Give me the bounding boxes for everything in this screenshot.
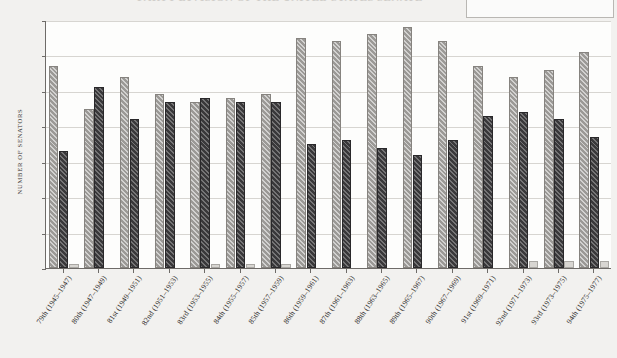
bar-group: [329, 21, 364, 268]
bar-democrat: [579, 52, 589, 268]
x-tick-label: 86th (1959–1961): [282, 274, 321, 326]
x-tick-label: 80th (1947–1949): [70, 274, 109, 326]
bar-democrat: [261, 94, 271, 268]
x-tick-mark: [487, 269, 488, 273]
bar-groups: [46, 21, 611, 268]
bar-group: [258, 21, 293, 268]
bar-republican: [590, 137, 600, 268]
chart-title: PARTY DIVISION OF THE UNITED STATES SENA…: [100, 0, 460, 3]
bar-other: [281, 264, 291, 268]
bar-other: [246, 264, 256, 268]
x-tick-label: 84th (1955–1957): [211, 274, 250, 326]
bar-group: [541, 21, 576, 268]
x-tick-label: 88th (1963–1965): [353, 274, 392, 326]
y-axis-title: NUMBER OF SENATORS: [16, 67, 23, 237]
x-tick-label: 92nd (1971–1973): [493, 274, 533, 327]
chart-legend: OTHER: [466, 0, 614, 18]
bar-republican: [413, 155, 423, 268]
x-tick-mark: [63, 269, 64, 273]
bar-group: [117, 21, 152, 268]
bar-republican: [271, 102, 281, 269]
x-tick-mark: [98, 269, 99, 273]
bar-democrat: [438, 41, 448, 268]
x-tick-mark: [381, 269, 382, 273]
bar-republican: [448, 140, 458, 268]
bar-group: [506, 21, 541, 268]
x-tick-mark: [240, 269, 241, 273]
bar-democrat: [120, 77, 130, 268]
x-tick-mark: [558, 269, 559, 273]
bar-group: [364, 21, 399, 268]
x-tick-mark: [452, 269, 453, 273]
bar-republican: [307, 144, 317, 268]
bar-democrat: [296, 38, 306, 268]
bar-democrat: [84, 109, 94, 268]
bar-group: [577, 21, 612, 268]
bar-republican: [200, 98, 210, 268]
bar-republican: [94, 87, 104, 268]
x-tick-label: 82nd (1951–1953): [139, 274, 179, 327]
x-tick-label: 83rd (1953–1955): [176, 274, 215, 326]
bar-group: [435, 21, 470, 268]
x-axis-labels: 79th (1945–1947)80th (1947–1949)81st (19…: [45, 274, 611, 358]
bar-group: [152, 21, 187, 268]
bar-group: [223, 21, 258, 268]
x-tick-mark: [204, 269, 205, 273]
x-tick-label: 89th (1965–1967): [388, 274, 427, 326]
bar-republican: [554, 119, 564, 268]
bar-other: [69, 264, 79, 268]
x-tick-label: 90th (1967–1969): [423, 274, 462, 326]
bar-democrat: [155, 94, 165, 268]
bar-other: [211, 264, 221, 268]
bar-republican: [59, 151, 69, 268]
x-tick-label: 93rd (1973–1975): [529, 274, 568, 326]
bar-democrat: [473, 66, 483, 268]
x-tick-mark: [275, 269, 276, 273]
bar-republican: [483, 116, 493, 268]
bar-other: [600, 261, 610, 268]
x-tick-label: 79th (1945–1947): [34, 274, 73, 326]
x-tick-label: 94th (1975–1977): [565, 274, 604, 326]
bar-republican: [236, 102, 246, 269]
x-tick-mark: [416, 269, 417, 273]
bar-group: [294, 21, 329, 268]
bar-group: [400, 21, 435, 268]
x-tick-mark: [310, 269, 311, 273]
bar-democrat: [226, 98, 236, 268]
x-tick-label: 87th (1961–1963): [317, 274, 356, 326]
bar-group: [81, 21, 116, 268]
bar-other: [529, 261, 539, 268]
x-tick-mark: [169, 269, 170, 273]
bar-democrat: [367, 34, 377, 268]
chart-root: PARTY DIVISION OF THE UNITED STATES SENA…: [0, 0, 617, 358]
x-tick-label: 81st (1949–1951): [105, 274, 143, 325]
bar-republican: [165, 102, 175, 269]
bar-other: [564, 261, 574, 268]
bar-democrat: [49, 66, 59, 268]
plot-area: 010203040506070: [45, 21, 611, 269]
x-tick-mark: [593, 269, 594, 273]
bar-democrat: [544, 70, 554, 268]
x-tick-label: 85th (1957–1959): [246, 274, 285, 326]
x-tick-mark: [523, 269, 524, 273]
bar-democrat: [403, 27, 413, 268]
bar-republican: [519, 112, 529, 268]
x-tick-mark: [133, 269, 134, 273]
bar-republican: [342, 140, 352, 268]
bar-democrat: [332, 41, 342, 268]
bar-republican: [130, 119, 140, 268]
bar-republican: [377, 148, 387, 268]
x-tick-mark: [346, 269, 347, 273]
bar-group: [471, 21, 506, 268]
bar-democrat: [509, 77, 519, 268]
bar-group: [46, 21, 81, 268]
bar-democrat: [190, 102, 200, 269]
bar-group: [188, 21, 223, 268]
x-tick-label: 91st (1969–1971): [459, 274, 497, 325]
